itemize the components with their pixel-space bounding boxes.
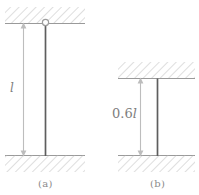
panel-a-dimension-arrow — [21, 23, 27, 157]
panel-b-dimension-label: 0.6l — [112, 106, 137, 121]
panel-b-bottom-support — [118, 156, 195, 173]
panel-a-bottom-support — [5, 156, 85, 173]
panel-b-dimension-prefix: 0.6 — [112, 106, 133, 121]
engineering-figure: l 0.6l (a) (b) — [0, 0, 199, 195]
panel-b-top-support — [118, 62, 195, 79]
panel-a-caption: (a) — [38, 178, 53, 189]
panel-b-dimension-arrow — [138, 78, 144, 157]
figure-drawing-canvas — [0, 0, 199, 195]
panel-b-caption: (b) — [150, 178, 165, 189]
panel-b-dimension-symbol: l — [133, 106, 137, 121]
panel-a-dimension-label: l — [10, 81, 14, 95]
panel-a-group — [5, 7, 85, 172]
pin-joint-icon — [42, 19, 48, 25]
